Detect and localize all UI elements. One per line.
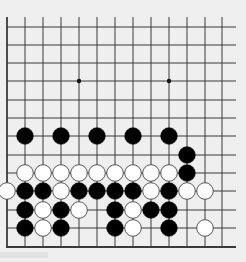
white-stone[interactable] <box>35 220 52 237</box>
white-stone[interactable] <box>179 183 196 200</box>
star-point <box>167 79 171 83</box>
black-stone[interactable] <box>161 202 178 219</box>
bottom-edge-strip <box>0 252 48 258</box>
white-stone[interactable] <box>197 183 214 200</box>
black-stone[interactable] <box>179 165 196 182</box>
white-stone[interactable] <box>0 183 15 200</box>
star-point <box>77 79 81 83</box>
black-stone[interactable] <box>53 202 70 219</box>
black-stone[interactable] <box>107 202 124 219</box>
white-stone[interactable] <box>35 202 52 219</box>
black-stone[interactable] <box>161 220 178 237</box>
white-stone[interactable] <box>197 220 214 237</box>
black-stone[interactable] <box>107 183 124 200</box>
black-stone[interactable] <box>143 202 160 219</box>
white-stone[interactable] <box>53 165 70 182</box>
stones <box>0 128 213 237</box>
black-stone[interactable] <box>125 128 142 145</box>
white-stone[interactable] <box>89 165 106 182</box>
black-stone[interactable] <box>107 220 124 237</box>
white-stone[interactable] <box>17 165 34 182</box>
white-stone[interactable] <box>35 165 52 182</box>
black-stone[interactable] <box>161 128 178 145</box>
white-stone[interactable] <box>125 202 142 219</box>
white-stone[interactable] <box>107 165 124 182</box>
black-stone[interactable] <box>89 183 106 200</box>
white-stone[interactable] <box>143 165 160 182</box>
black-stone[interactable] <box>53 128 70 145</box>
white-stone[interactable] <box>143 183 160 200</box>
black-stone[interactable] <box>71 183 88 200</box>
black-stone[interactable] <box>17 202 34 219</box>
white-stone[interactable] <box>71 165 88 182</box>
black-stone[interactable] <box>161 183 178 200</box>
black-stone[interactable] <box>53 220 70 237</box>
go-board-grid[interactable] <box>0 0 246 262</box>
black-stone[interactable] <box>35 183 52 200</box>
white-stone[interactable] <box>125 220 142 237</box>
white-stone[interactable] <box>71 202 88 219</box>
black-stone[interactable] <box>89 128 106 145</box>
black-stone[interactable] <box>17 183 34 200</box>
black-stone[interactable] <box>179 147 196 164</box>
white-stone[interactable] <box>125 165 142 182</box>
black-stone[interactable] <box>17 128 34 145</box>
white-stone[interactable] <box>53 183 70 200</box>
white-stone[interactable] <box>161 165 178 182</box>
black-stone[interactable] <box>125 183 142 200</box>
black-stone[interactable] <box>17 220 34 237</box>
go-board[interactable] <box>0 0 246 262</box>
